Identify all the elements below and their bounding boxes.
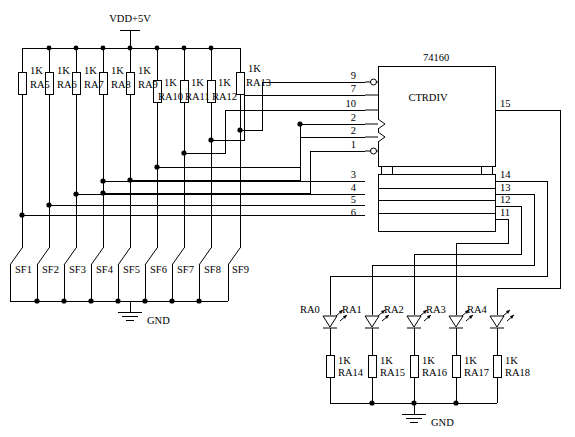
pin-number-2a: 2 — [351, 112, 356, 123]
resistor-RA12-ref: RA12 — [212, 91, 237, 102]
pin-number-13: 13 — [500, 182, 511, 193]
switch-blade-SF9[interactable] — [228, 248, 240, 265]
resistor-RA10-value: 1K — [164, 77, 177, 88]
resistor-RA16-ref: RA16 — [422, 367, 447, 378]
switch-blade-SF5[interactable] — [118, 248, 130, 265]
resistor-RA17-ref: RA17 — [464, 367, 489, 378]
ic-title: 74160 — [423, 52, 449, 63]
switch-label-SF3: SF3 — [69, 264, 86, 275]
pin-number-1: 1 — [351, 139, 356, 150]
switch-label-SF8: SF8 — [204, 264, 221, 275]
pin-number-12: 12 — [500, 194, 511, 205]
pin1-inversion-bubble — [371, 148, 377, 154]
resistor-RA16 — [410, 355, 418, 377]
pin9-inversion-bubble — [371, 79, 377, 85]
switch-blade-SF8[interactable] — [199, 248, 211, 265]
circuit-diagram-canvas: VDD+5V 1K RA5 1K RA6 1K RA7 1K RA8 1K RA… — [0, 0, 575, 437]
resistor-RA6-value: 1K — [57, 65, 70, 76]
resistor-RA5-ref: RA5 — [30, 79, 50, 90]
resistor-RA18 — [493, 355, 501, 377]
switch-blade-SF3[interactable] — [64, 248, 76, 265]
switch-blade-SF4[interactable] — [91, 248, 103, 265]
led-label-RA2: RA2 — [384, 304, 404, 315]
resistor-RA7-value: 1K — [84, 65, 97, 76]
resistor-RA12-value: 1K — [218, 77, 231, 88]
switch-blade-SF6[interactable] — [145, 248, 157, 265]
switch-label-SF7: SF7 — [177, 264, 194, 275]
resistor-RA7-ref: RA7 — [84, 79, 104, 90]
switch-label-SF6: SF6 — [150, 264, 167, 275]
resistor-RA13-value: 1K — [248, 63, 261, 74]
gnd-label-left: GND — [147, 315, 170, 326]
switch-label-SF1: SF1 — [15, 264, 32, 275]
switch-label-SF5: SF5 — [123, 264, 140, 275]
switch-blade-SF2[interactable] — [37, 248, 49, 265]
switch-blade-SF1[interactable] — [10, 248, 22, 265]
pin-number-5: 5 — [351, 194, 356, 205]
resistor-RA17-value: 1K — [464, 355, 477, 366]
resistor-RA6-ref: RA6 — [57, 79, 77, 90]
pin-number-11: 11 — [500, 207, 510, 218]
pin-number-10: 10 — [346, 98, 357, 109]
resistor-RA18-value: 1K — [505, 355, 518, 366]
resistor-RA11-ref: RA11 — [185, 91, 210, 102]
pin-number-14: 14 — [500, 169, 511, 180]
switch-label-SF4: SF4 — [96, 264, 114, 275]
net-pin1 — [103, 151, 365, 193]
pin-number-4: 4 — [351, 182, 357, 193]
pin-number-9: 9 — [351, 70, 356, 81]
ic-function-label: CTRDIV — [408, 92, 448, 103]
switch-label-SF2: SF2 — [42, 264, 59, 275]
switch-blade-SF7[interactable] — [172, 248, 184, 265]
resistor-RA11-value: 1K — [191, 77, 204, 88]
net-pin2b — [130, 137, 365, 180]
resistor-RA10-ref: RA10 — [158, 91, 183, 102]
resistor-RA14-ref: RA14 — [338, 367, 364, 378]
vdd-label: VDD+5V — [109, 13, 151, 24]
resistor-RA15-value: 1K — [380, 355, 393, 366]
resistor-RA13 — [236, 72, 244, 94]
ic-output-block — [378, 174, 495, 231]
led-label-RA0: RA0 — [300, 304, 320, 315]
pin-number-2b: 2 — [351, 125, 356, 136]
led-label-RA3: RA3 — [426, 304, 446, 315]
resistor-RA9-ref: RA9 — [138, 79, 158, 90]
resistor-RA13-ref: RA13 — [246, 77, 271, 88]
led-label-RA1: RA1 — [342, 304, 362, 315]
resistor-RA16-value: 1K — [422, 355, 435, 366]
ic-body-74160 — [378, 66, 495, 166]
switch-label-SF9: SF9 — [232, 264, 249, 275]
resistor-RA5-value: 1K — [30, 65, 43, 76]
led-label-RA4: RA4 — [467, 304, 488, 315]
pin-number-3: 3 — [351, 169, 356, 180]
schematic-svg: VDD+5V 1K RA5 1K RA6 1K RA7 1K RA8 1K RA… — [0, 0, 575, 437]
pin-number-7: 7 — [351, 83, 356, 94]
net-pin11 — [456, 219, 508, 315]
resistor-RA5 — [18, 72, 26, 94]
led-RA4 — [490, 310, 514, 328]
gnd-label-right: GND — [431, 417, 454, 428]
resistor-RA8-value: 1K — [111, 65, 124, 76]
resistor-RA15-ref: RA15 — [380, 367, 405, 378]
resistor-RA14-value: 1K — [338, 355, 351, 366]
resistor-RA9-value: 1K — [138, 65, 151, 76]
pin-number-15: 15 — [500, 98, 511, 109]
pin-number-6: 6 — [351, 207, 356, 218]
resistor-RA8-ref: RA8 — [111, 79, 131, 90]
resistor-RA15 — [368, 355, 376, 377]
resistor-RA14 — [326, 355, 334, 377]
resistor-RA17 — [452, 355, 460, 377]
resistor-RA18-ref: RA18 — [505, 367, 530, 378]
